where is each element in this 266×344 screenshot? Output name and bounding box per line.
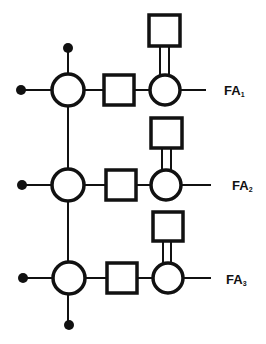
- row-2: [21, 118, 211, 201]
- row-1: [21, 15, 206, 106]
- row-3: [23, 212, 211, 294]
- label-fa1: FA1: [224, 83, 245, 98]
- node-square-top: [153, 212, 183, 241]
- node-circle-left: [52, 169, 84, 201]
- node-square-middle: [106, 170, 136, 200]
- terminal-dot: [16, 85, 26, 95]
- node-circle-right: [150, 75, 180, 105]
- node-square-top: [149, 15, 180, 46]
- node-circle-left: [52, 74, 84, 106]
- node-square-middle: [104, 75, 134, 105]
- node-circle-right: [151, 170, 181, 200]
- node-square-middle: [107, 263, 137, 293]
- label-fa3: FA3: [226, 272, 247, 287]
- node-circle-right: [153, 263, 183, 293]
- terminal-dot-top: [63, 43, 73, 53]
- node-square-top: [151, 118, 182, 148]
- label-fa2: FA2: [232, 178, 253, 193]
- terminal-dot: [17, 180, 27, 190]
- node-circle-left: [53, 262, 85, 294]
- terminal-dot: [18, 273, 28, 283]
- terminal-dot-bottom: [64, 320, 74, 330]
- diagram-canvas: FA1 FA2 FA3: [0, 0, 266, 344]
